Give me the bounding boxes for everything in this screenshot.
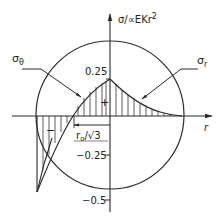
sigma-theta-leader (22, 69, 81, 97)
sigma-r-leader (142, 69, 198, 99)
x-axis-label: r (204, 122, 209, 133)
tick-label-minus-0-25: −0.25 (76, 150, 107, 161)
stress-diagram: σ/∝EKr2 r 0.25 −0.25 −0.5 σθ σr + − ro/√… (0, 0, 223, 223)
sigma-r-label: σr (197, 54, 208, 69)
y-axis-label: σ/∝EKr2 (118, 12, 157, 25)
negative-sign: − (46, 124, 55, 137)
positive-sign: + (100, 96, 109, 109)
tick-label-minus-0-5: −0.5 (82, 195, 106, 206)
sigma-theta-label: σθ (12, 52, 24, 67)
sigma-theta-lower-branch (37, 138, 52, 192)
tick-label-0-25: 0.25 (85, 66, 107, 77)
